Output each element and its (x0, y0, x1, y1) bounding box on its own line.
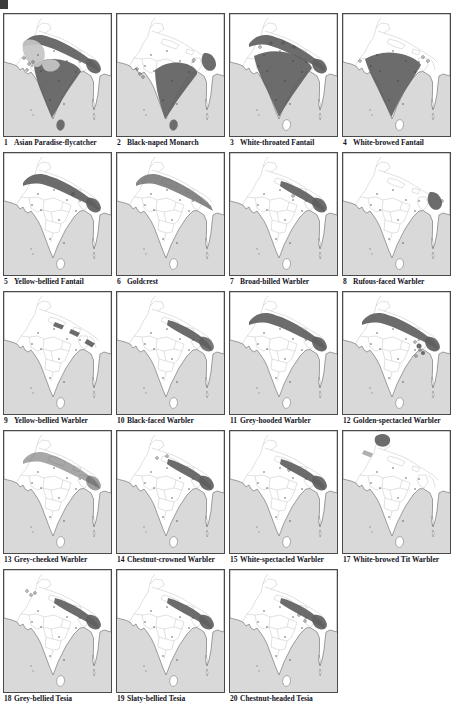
map-caption: 12Golden-spectacled Warbler (342, 415, 451, 427)
map-caption: 17White-browed Tit Warbler (342, 554, 451, 566)
species-name: Chestnut-crowned Warbler (127, 555, 215, 564)
page-edge-marker (0, 0, 8, 9)
species-name: Rufous-faced Warbler (353, 277, 424, 286)
map-number: 3 (230, 138, 240, 148)
map-caption: 14Chestnut-crowned Warbler (116, 554, 225, 566)
distribution-map (342, 152, 451, 276)
maps-grid: 1Asian Paradise-flycatcher 2Black-naped … (3, 13, 453, 705)
distribution-map (116, 569, 225, 693)
map-cell: 10Black-faced Warbler (116, 291, 225, 427)
species-name: White-browed Tit Warbler (353, 555, 439, 564)
india-map-svg (117, 570, 224, 692)
india-map-svg (343, 14, 450, 136)
map-cell: 18Grey-bellied Tesia (3, 569, 112, 705)
map-caption: 6Goldcrest (116, 276, 225, 288)
distribution-map (116, 152, 225, 276)
map-cell: 1Asian Paradise-flycatcher (3, 13, 112, 149)
distribution-map (229, 569, 338, 693)
species-name: Goldcrest (127, 277, 158, 286)
distribution-map (3, 291, 112, 415)
distribution-map (3, 152, 112, 276)
species-name: Yellow-bellied Warbler (14, 416, 88, 425)
map-cell: 4White-browed Fantail (342, 13, 451, 149)
species-name: Asian Paradise-flycatcher (14, 138, 97, 147)
map-cell: 5Yellow-bellied Fantail (3, 152, 112, 288)
species-name: Grey-hooded Warbler (240, 416, 311, 425)
species-name: Slaty-bellied Tesia (127, 694, 185, 703)
map-cell: 6Goldcrest (116, 152, 225, 288)
map-cell: 14Chestnut-crowned Warbler (116, 430, 225, 566)
india-map-svg (230, 292, 337, 414)
map-cell: 13Grey-cheeked Warbler (3, 430, 112, 566)
map-cell: 11Grey-hooded Warbler (229, 291, 338, 427)
map-number: 5 (4, 277, 14, 287)
map-cell: 9Yellow-bellied Warbler (3, 291, 112, 427)
map-caption: 19Slaty-bellied Tesia (116, 693, 225, 705)
india-map-svg (117, 292, 224, 414)
map-caption: 8Rufous-faced Warbler (342, 276, 451, 288)
india-map-svg (230, 431, 337, 553)
map-number: 13 (4, 555, 14, 565)
india-map-svg (4, 570, 111, 692)
species-name: White-spectacled Warbler (240, 555, 324, 564)
map-caption: 13Grey-cheeked Warbler (3, 554, 112, 566)
map-number: 19 (117, 694, 127, 704)
map-caption: 5Yellow-bellied Fantail (3, 276, 112, 288)
india-map-svg (343, 292, 450, 414)
distribution-map (3, 569, 112, 693)
map-number: 17 (343, 555, 353, 565)
species-name: Golden-spectacled Warbler (353, 416, 441, 425)
india-map-svg (117, 14, 224, 136)
map-number: 7 (230, 277, 240, 287)
india-map-svg (230, 153, 337, 275)
map-caption: 11Grey-hooded Warbler (229, 415, 338, 427)
map-number: 8 (343, 277, 353, 287)
map-number: 9 (4, 416, 14, 426)
species-name: Black-faced Warbler (127, 416, 194, 425)
map-caption: 1Asian Paradise-flycatcher (3, 137, 112, 149)
india-map-svg (4, 431, 111, 553)
distribution-map (116, 430, 225, 554)
species-name: Chestnut-headed Tesia (240, 694, 313, 703)
map-cell: 15White-spectacled Warbler (229, 430, 338, 566)
india-map-svg (230, 570, 337, 692)
distribution-map (342, 430, 451, 554)
india-map-svg (230, 14, 337, 136)
species-name: Grey-bellied Tesia (14, 694, 72, 703)
map-number: 18 (4, 694, 14, 704)
map-cell: 19Slaty-bellied Tesia (116, 569, 225, 705)
distribution-map (229, 13, 338, 137)
distribution-map (229, 152, 338, 276)
map-caption: 15White-spectacled Warbler (229, 554, 338, 566)
india-map-svg (4, 292, 111, 414)
map-number: 11 (230, 416, 240, 426)
india-map-svg (343, 153, 450, 275)
plate-page: { "page": { "kind": "bird-field-guide-di… (0, 0, 456, 711)
india-map-svg (117, 431, 224, 553)
distribution-map (342, 291, 451, 415)
map-number: 6 (117, 277, 127, 287)
map-number: 2 (117, 138, 127, 148)
map-cell: 12Golden-spectacled Warbler (342, 291, 451, 427)
distribution-map (116, 13, 225, 137)
india-map-svg (117, 153, 224, 275)
species-name: Grey-cheeked Warbler (14, 555, 87, 564)
india-map-svg (4, 153, 111, 275)
map-cell: 20Chestnut-headed Tesia (229, 569, 338, 705)
map-caption: 4White-browed Fantail (342, 137, 451, 149)
india-map-svg (343, 431, 450, 553)
map-caption: 7Broad-billed Warbler (229, 276, 338, 288)
map-number: 20 (230, 694, 240, 704)
distribution-map (116, 291, 225, 415)
map-caption: 2Black-naped Monarch (116, 137, 225, 149)
map-number: 15 (230, 555, 240, 565)
species-name: Broad-billed Warbler (240, 277, 309, 286)
map-caption: 10Black-faced Warbler (116, 415, 225, 427)
map-number: 12 (343, 416, 353, 426)
map-number: 14 (117, 555, 127, 565)
map-caption: 20Chestnut-headed Tesia (229, 693, 338, 705)
distribution-map (3, 430, 112, 554)
species-name: Yellow-bellied Fantail (14, 277, 84, 286)
distribution-map (3, 13, 112, 137)
map-cell: 3White-throated Fantail (229, 13, 338, 149)
